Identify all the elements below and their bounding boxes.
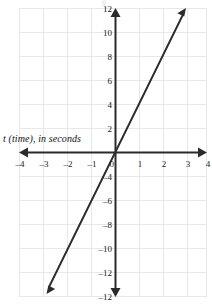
y-tick-label--10: –12 [99,269,113,278]
y-tick-label-2: 2 [108,125,113,134]
y-tick-label-4: 4 [108,101,113,110]
clipped-top-label: g [102,0,106,6]
x-tick-label-2: 2 [162,160,167,169]
x-tick-label--3: –3 [40,160,49,169]
x-tick-label--1: –1 [88,160,97,169]
x-tick-label-3: 3 [186,160,191,169]
coordinate-graph-figure: –4 –3 –2 –1 0 1 2 3 4 12 10 8 6 4 2 –4 –… [0,0,212,306]
x-tick-label--2: –2 [64,160,73,169]
x-tick-label--4: –4 [16,160,25,169]
y-tick-label--2: –4 [103,173,112,182]
y-tick-label-10: 10 [103,29,112,38]
x-tick-label-4: 4 [206,160,211,169]
origin-label: 0 [110,160,115,169]
y-tick-label-6: 6 [108,77,113,86]
y-tick-label--6: –8 [103,221,112,230]
arrow-down-left-icon [47,285,56,294]
y-tick-label--8: –10 [99,245,113,254]
plot-series-line [0,0,212,306]
linear-function-line [49,14,184,288]
y-tick-label--4: –6 [103,197,112,206]
x-tick-label-1: 1 [138,160,143,169]
y-tick-label--12: –12 [99,293,113,302]
y-tick-label-8: 8 [108,53,113,62]
x-axis-title: t (time), in seconds [3,134,81,144]
arrow-up-right-icon [177,8,186,17]
